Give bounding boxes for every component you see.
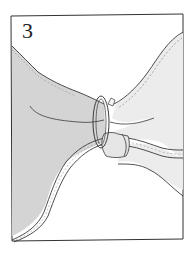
left-cloth [12,46,106,236]
step-number: 3 [22,20,33,42]
knot-tip [108,98,115,106]
